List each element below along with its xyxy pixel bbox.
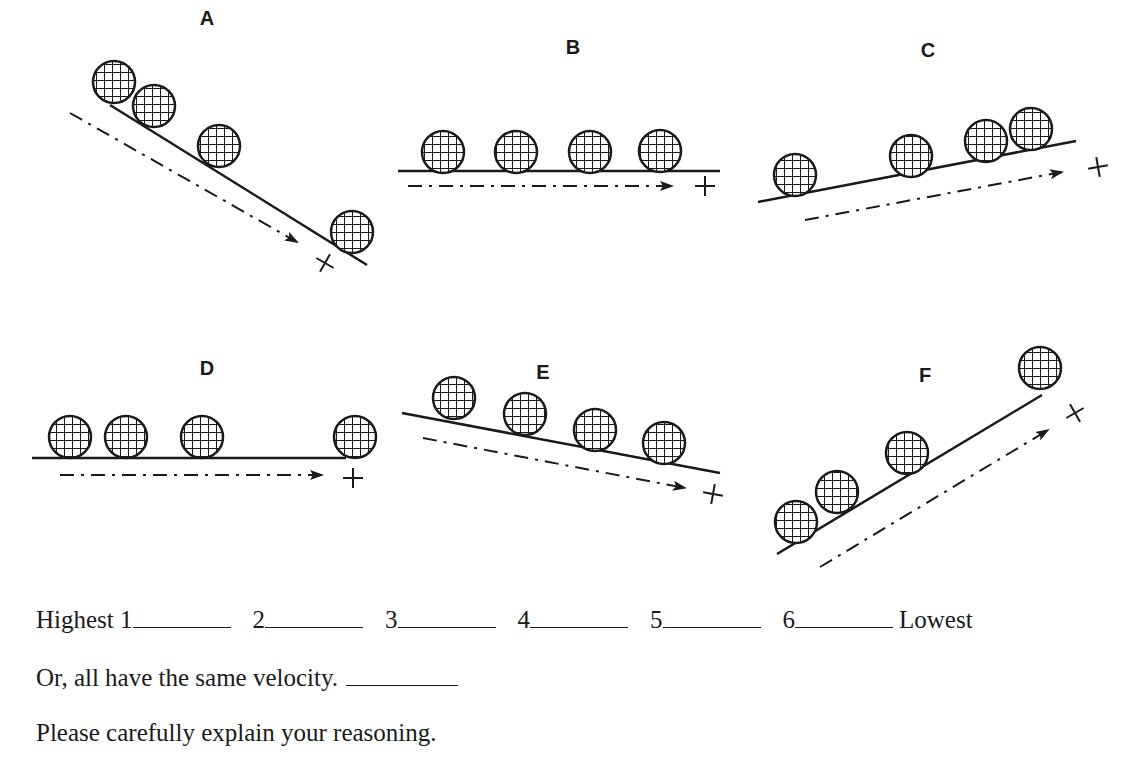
direction-arrow-icon [70,113,297,242]
positive-direction-icon [701,482,724,505]
rank-2-blank[interactable] [265,607,363,628]
panels-layer: ABCDEF [32,7,1110,567]
panel-label: E [536,361,549,383]
ball-icon [334,416,376,458]
rank-5-blank[interactable] [663,607,761,628]
rank-1: 1 [120,606,231,634]
direction-arrow-icon [805,172,1062,220]
explain-prompt: Please carefully explain your reasoning. [36,719,437,747]
rank-1-blank[interactable] [133,607,231,628]
positive-direction-icon [1086,155,1109,178]
panel-label: B [566,36,580,58]
positive-direction-icon [695,176,715,196]
ball-icon [569,131,611,173]
track-line [110,105,367,265]
ball-icon [574,409,616,451]
ball-icon [331,211,373,253]
highest-label: Highest [36,606,114,633]
ball-icon [504,393,546,435]
panel-f: F [775,347,1089,567]
ball-icon [774,154,816,196]
panel-b: B [398,36,720,196]
same-velocity-row: Or, all have the same velocity. [36,664,458,692]
ball-icon [890,135,932,177]
panel-d: D [32,357,376,488]
ball-icon [495,131,537,173]
rank-3-blank[interactable] [398,607,496,628]
panel-c: C [758,39,1110,220]
panel-a: A [70,7,373,277]
panel-label: A [200,7,214,29]
ball-icon [775,501,817,543]
panel-label: D [200,357,214,379]
positive-direction-icon [1061,399,1088,426]
rank-6: 6 [783,606,894,634]
lowest-label: Lowest [899,606,973,633]
ball-icon [181,416,223,458]
ball-icon [133,85,175,127]
positive-direction-icon [311,249,338,276]
same-velocity-blank[interactable] [346,665,458,686]
rank-3: 3 [385,606,496,634]
ball-icon [639,130,681,172]
ball-icon [422,131,464,173]
rank-4-blank[interactable] [530,607,628,628]
rank-5: 5 [650,606,761,634]
ball-icon [643,422,685,464]
ball-icon [433,377,475,419]
panel-label: C [921,39,935,61]
ball-icon [965,120,1007,162]
ball-tracks-diagram: ABCDEF [0,0,1137,600]
ball-icon [198,125,240,167]
rank-4: 4 [518,606,629,634]
ball-icon [816,471,858,513]
panel-label: F [919,364,931,386]
ball-icon [105,416,147,458]
ball-icon [49,416,91,458]
ball-icon [1019,347,1061,389]
ball-icon [93,61,135,103]
ball-icon [886,432,928,474]
positive-direction-icon [343,468,363,488]
rank-6-blank[interactable] [795,607,893,628]
panel-e: E [402,361,725,506]
ranking-row: Highest 123456Lowest [36,606,973,634]
ball-icon [1010,108,1052,150]
rank-2: 2 [253,606,364,634]
same-velocity-label: Or, all have the same velocity. [36,664,338,691]
